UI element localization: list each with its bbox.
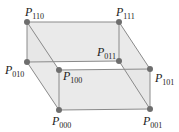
label-subscript: 001 (150, 121, 162, 130)
label-subscript: 011 (104, 52, 116, 61)
label-p001: P001 (143, 115, 162, 130)
label-p111: P111 (116, 6, 135, 21)
label-subscript: 100 (70, 76, 82, 85)
label-subscript: 000 (59, 121, 71, 130)
label-subscript: 111 (123, 12, 134, 21)
label-subscript: 010 (12, 70, 24, 79)
label-subscript: 101 (162, 78, 174, 87)
label-p011: P011 (97, 46, 116, 61)
label-subscript: 110 (32, 12, 44, 21)
label-p100: P100 (63, 70, 82, 85)
label-p101: P101 (155, 72, 174, 87)
label-p110: P110 (25, 6, 44, 21)
label-p000: P000 (52, 115, 71, 130)
label-p010: P010 (5, 64, 24, 79)
faces (27, 22, 150, 110)
